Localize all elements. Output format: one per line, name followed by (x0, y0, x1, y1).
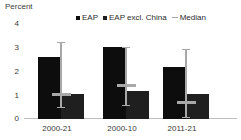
legend-label-eap: EAP (82, 13, 98, 22)
bar-group-2011-21 (163, 23, 219, 119)
legend-label-median: Median (180, 13, 206, 22)
y-axis-title: Percent (5, 2, 33, 11)
range-cap-high-2000-21 (57, 42, 65, 44)
legend-item-median[interactable]: Median (172, 13, 206, 22)
median-marker-2000-21 (52, 93, 71, 96)
range-whisker-2000-21 (60, 42, 62, 108)
x-tick-label-2000-21: 2000-21 (26, 124, 88, 133)
median-marker-2011-21 (177, 101, 196, 104)
y-tick-label-4: 4 (5, 19, 19, 28)
y-tick-label-0: 0 (5, 114, 19, 123)
range-cap-low-2000-10 (122, 105, 130, 107)
range-cap-high-2011-21 (182, 49, 190, 51)
legend-item-eap-excl-china[interactable]: EAP excl. China (103, 13, 167, 22)
bar-eap-2000-10[interactable] (103, 47, 126, 119)
chart-legend: EAP EAP excl. China Median (76, 13, 206, 22)
range-cap-low-2011-21 (182, 117, 190, 119)
y-tick-label-2: 2 (5, 67, 19, 76)
chart-container: Percent EAP EAP excl. China Median 4 3 2… (0, 0, 241, 140)
legend-swatch-square-eap (76, 16, 80, 20)
median-marker-2000-10 (117, 84, 136, 87)
bar-group-2000-21 (38, 23, 94, 119)
y-tick-label-3: 3 (5, 43, 19, 52)
bar-group-2000-10 (103, 23, 159, 119)
range-cap-low-2000-21 (57, 107, 65, 109)
legend-label-eap-excl-china: EAP excl. China (109, 13, 167, 22)
legend-swatch-square-eap-excl-china (103, 16, 107, 20)
x-tick-label-2000-10: 2000-10 (91, 124, 153, 133)
range-whisker-2011-21 (185, 49, 187, 118)
legend-swatch-line-median (172, 17, 178, 19)
range-cap-high-2000-10 (122, 47, 130, 49)
legend-item-eap[interactable]: EAP (76, 13, 98, 22)
range-whisker-2000-10 (125, 47, 127, 106)
plot-area (24, 23, 237, 119)
x-tick-label-2011-21: 2011-21 (151, 124, 213, 133)
bar-eap-2011-21[interactable] (163, 67, 186, 119)
bar-eap-2000-21[interactable] (38, 57, 61, 119)
y-tick-label-1: 1 (5, 91, 19, 100)
bar-eap-excl-china-2011-21[interactable] (186, 94, 209, 119)
